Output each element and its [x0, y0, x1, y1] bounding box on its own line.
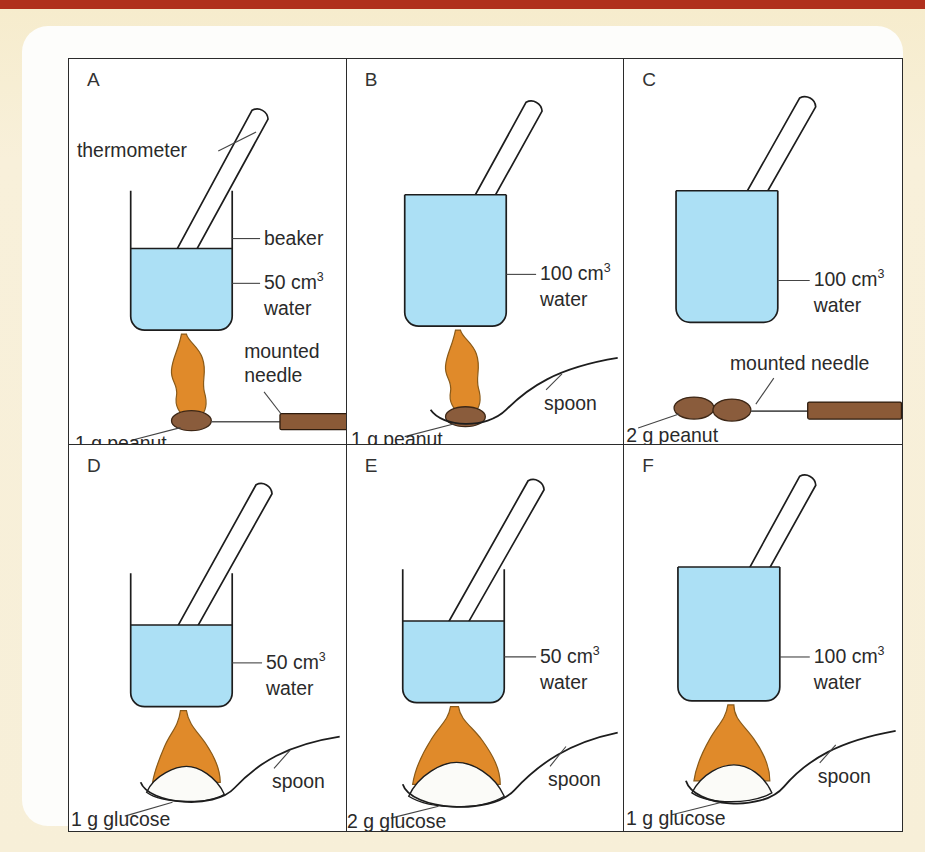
water-volume-label: 50 cm3 [266, 650, 326, 673]
panel-e-diagram: 50 cm3 water spoon 2 g glucose [347, 445, 624, 831]
water-volume-label: 50 cm3 [264, 270, 324, 293]
panel-b-diagram: 100 cm3 water spoon 1 g peanut [347, 59, 624, 444]
peanut-icon [674, 397, 751, 421]
flame-icon [171, 334, 206, 418]
beaker-icon [676, 191, 778, 326]
flame-icon [445, 330, 480, 414]
support-leader [550, 746, 566, 766]
support-label: spoon [544, 392, 597, 414]
panel-d: D [69, 445, 347, 831]
water-label: water [539, 671, 588, 693]
water-label: water [539, 288, 588, 310]
water-label: water [813, 671, 862, 693]
panel-b: B [347, 59, 625, 445]
figure-card: A [22, 26, 903, 826]
water-label: water [265, 677, 314, 699]
panel-grid: A [68, 58, 903, 832]
beaker-icon [678, 567, 780, 705]
panel-f-diagram: 100 cm3 water spoon 1 g glucose [624, 445, 902, 831]
panel-e: E [347, 445, 625, 831]
thermometer-label: thermometer [77, 139, 187, 161]
support-leader [756, 378, 774, 404]
support-leader [264, 392, 281, 414]
beaker-icon [402, 569, 504, 705]
beaker-icon [404, 195, 506, 329]
beaker-icon [131, 573, 233, 709]
support-label: spoon [818, 765, 871, 787]
support-leader [820, 745, 836, 763]
support-label-line2: needle [244, 364, 302, 386]
water-volume-label: 100 cm3 [814, 267, 885, 290]
beaker-label: beaker [264, 227, 324, 249]
support-label-line1: mounted [244, 340, 319, 362]
support-label: spoon [548, 768, 601, 790]
fuel-label: 1 g peanut [351, 428, 443, 444]
fuel-label: 2 g peanut [627, 424, 719, 444]
water-label: water [813, 294, 862, 316]
water-volume-label: 100 cm3 [814, 644, 885, 667]
fuel-label: 1 g glucose [626, 807, 726, 829]
fuel-label: 1 g peanut [75, 432, 167, 444]
mounted-needle-icon [211, 414, 345, 430]
support-label: spoon [272, 770, 325, 792]
fuel-label: 1 g glucose [71, 808, 170, 830]
peanut-icon [172, 411, 212, 431]
water-label: water [263, 297, 312, 319]
page-top-rule [0, 0, 925, 9]
panel-f: F [624, 445, 902, 831]
panel-a-diagram: thermometer beaker 50 cm3 water mounted … [69, 59, 346, 444]
panel-d-diagram: 50 cm3 water spoon 1 g glucose [69, 445, 346, 831]
panel-c-diagram: 100 cm3 water mounted needle 2 g peanut [624, 59, 902, 444]
support-label: mounted needle [730, 352, 869, 374]
water-volume-label: 50 cm3 [540, 644, 600, 667]
panel-c: C [624, 59, 902, 445]
water-volume-label: 100 cm3 [540, 261, 611, 284]
panel-a: A [69, 59, 347, 445]
fuel-label: 2 g glucose [347, 810, 446, 831]
mounted-needle-icon [751, 402, 902, 419]
